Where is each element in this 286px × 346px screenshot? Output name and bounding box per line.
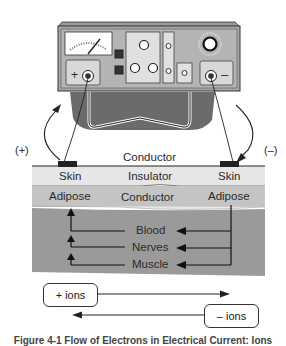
- negative-terminal-label: –: [221, 67, 228, 82]
- surface-conductor-label: Conductor: [123, 151, 176, 163]
- adipose-left-label: Adipose: [49, 190, 91, 202]
- muscle-label: Muscle: [132, 258, 168, 270]
- negative-ions-box: – ions: [204, 304, 259, 328]
- figure-caption: Figure 4-1 Flow of Electrons in Electric…: [0, 335, 286, 346]
- adipose-right-label: Adipose: [208, 190, 250, 202]
- skin-left-label: Skin: [59, 170, 81, 182]
- positive-terminal-label: +: [71, 68, 78, 82]
- device-base-shadow: [70, 92, 215, 130]
- nerves-label: Nerves: [132, 241, 168, 253]
- negative-polarity-label: (–): [264, 144, 277, 156]
- positive-ions-box: + ions: [43, 283, 98, 307]
- adipose-conductor-label: Conductor: [121, 191, 174, 203]
- blood-label: Blood: [136, 224, 165, 236]
- positive-polarity-label: (+): [15, 144, 29, 156]
- positive-electrode: [58, 161, 77, 167]
- negative-electrode: [220, 161, 239, 167]
- skin-right-label: Skin: [218, 170, 240, 182]
- skin-insulator-label: Insulator: [128, 170, 172, 182]
